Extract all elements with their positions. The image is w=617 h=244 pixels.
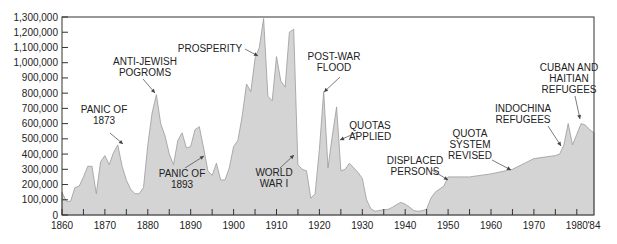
y-tick-label: 400,000 [22,149,59,160]
annotation-label: QUOTA [453,128,488,139]
x-tick-label: 1900 [222,220,245,231]
annotation-label: ANTI-JEWISH [113,56,177,67]
x-tick-label: 1860 [51,220,74,231]
x-tick-label: 1930 [351,220,374,231]
annotation-label: 1873 [93,115,116,126]
y-tick-label: 100,000 [22,194,59,205]
annotation-label: PANIC OF [159,168,205,179]
x-tick-label: 1870 [94,220,117,231]
annotation-label: REFUGEES [495,114,550,125]
annotation-label: 1893 [171,179,194,190]
annotation-label: CUBAN AND [540,62,598,73]
x-tick-label: 1880 [137,220,160,231]
annotation-label: PROSPERITY [178,43,243,54]
annotation-label: FLOOD [317,62,351,73]
x-tick-label: 1970 [523,220,546,231]
y-tick-label: 600,000 [22,118,59,129]
annotation-label: WAR I [260,178,289,189]
annotation: PROSPERITY [178,43,258,56]
x-tick-label: 1940 [394,220,417,231]
arrowhead-icon [577,115,581,119]
annotation: DISPLACEDPERSONS [387,155,448,180]
y-tick-label: 0 [52,210,58,221]
annotation-label: REFUGEES [541,84,596,95]
annotation: PANIC OF1873 [81,104,127,144]
annotation: INDOCHINAREFUGEES [495,103,561,146]
x-tick-label: 1910 [265,220,288,231]
x-tick-label: 1960 [480,220,503,231]
annotation-label: SYSTEM [449,139,490,150]
annotation: QUOTASAPPLIED [340,120,391,142]
annotation-label: DISPLACED [387,155,444,166]
annotation: POST-WARFLOOD [308,51,361,92]
x-tick-label: 1920 [308,220,331,231]
y-tick-label: 1,200,000 [14,27,59,38]
y-tick-label: 200,000 [22,179,59,190]
x-tick-label: 1950 [437,220,460,231]
x-tick-label: 1980 [566,220,589,231]
annotation-label: WORLD [255,167,292,178]
annotation: ANTI-JEWISHPOGROMS [113,56,177,93]
y-tick-label: 1,300,000 [14,12,59,23]
y-tick-label: 700,000 [22,103,59,114]
y-axis: 0100,000200,000300,000400,000500,000600,… [14,12,69,221]
y-tick-label: 900,000 [22,72,59,83]
y-tick-label: 1,100,000 [14,42,59,53]
arrowhead-icon [557,142,561,146]
x-tick-label: 1890 [180,220,203,231]
y-tick-label: 300,000 [22,164,59,175]
annotation-label: PANIC OF [81,104,127,115]
y-tick-label: 800,000 [22,88,59,99]
y-tick-label: 500,000 [22,133,59,144]
annotation-label: QUOTAS [349,120,391,131]
annotation-label: HAITIAN [549,73,588,84]
annotation-label: APPLIED [349,131,391,142]
x-tick-label: '84 [587,220,600,231]
immigration-area-chart: 0100,000200,000300,000400,000500,000600,… [0,0,617,244]
annotation-label: PERSONS [391,166,440,177]
annotation-label: REVISED [448,150,492,161]
annotation-label: INDOCHINA [495,103,551,114]
annotation: QUOTASYSTEMREVISED [448,128,511,170]
y-tick-label: 1,000,000 [14,57,59,68]
annotation-label: POST-WAR [308,51,361,62]
annotation-label: POGROMS [119,67,172,78]
